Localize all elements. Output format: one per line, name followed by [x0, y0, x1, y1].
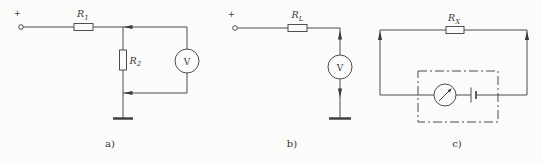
- voltmeter-letter: V: [183, 57, 191, 67]
- resistor-rl-body: [288, 25, 307, 32]
- resistor-r2-body: [120, 50, 127, 70]
- current-arrow-left-icon: [124, 91, 133, 95]
- current-arrow-up-icon: [525, 31, 529, 40]
- voltmeter-letter: V: [336, 63, 344, 73]
- circuit-b: + RL V b): [228, 9, 352, 149]
- resistor-rx-label: RX: [447, 12, 461, 26]
- instrument-enclosure-dashdot-box: [418, 71, 498, 122]
- caption-b: b): [287, 138, 297, 149]
- input-terminal-icon: [233, 26, 238, 31]
- current-arrow-down-icon: [338, 89, 342, 98]
- polarity-plus-label: +: [14, 9, 21, 18]
- resistor-r2-label: R2: [129, 55, 142, 69]
- caption-c: c): [452, 138, 462, 149]
- circuit-figure: + R1 R2 V a) + RL: [0, 0, 541, 162]
- resistor-r1-body: [74, 24, 93, 31]
- circuit-a: + R1 R2 V a): [14, 8, 199, 149]
- resistor-r1-label: R1: [76, 8, 89, 22]
- circuit-diagrams-svg: + R1 R2 V a) + RL: [0, 0, 541, 162]
- circuit-c: RX c): [378, 12, 529, 149]
- current-arrow-up-icon: [378, 31, 382, 40]
- current-arrow-up-icon: [338, 31, 342, 40]
- input-terminal-icon: [19, 25, 24, 30]
- caption-a: a): [105, 138, 115, 149]
- polarity-plus-label: +: [228, 10, 235, 19]
- current-arrow-left-icon: [124, 25, 133, 29]
- resistor-rx-body: [446, 27, 464, 34]
- resistor-rl-label: RL: [291, 9, 304, 23]
